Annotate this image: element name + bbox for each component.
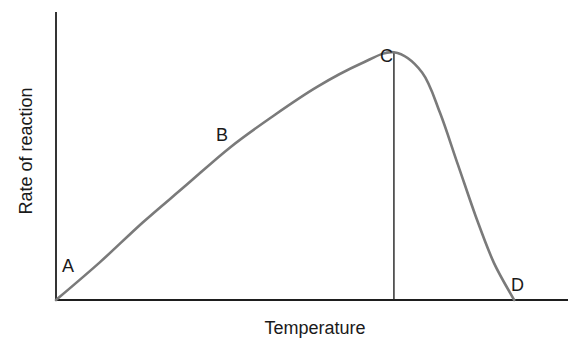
label-d: D [511, 275, 524, 295]
label-a: A [62, 256, 74, 276]
rate-curve [56, 52, 514, 300]
y-axis-title: Rate of reaction [16, 87, 36, 214]
label-c: C [380, 46, 393, 66]
label-b: B [216, 125, 228, 145]
x-axis-title: Temperature [264, 318, 365, 338]
enzyme-rate-chart: A B C D Temperature Rate of reaction [0, 0, 574, 352]
